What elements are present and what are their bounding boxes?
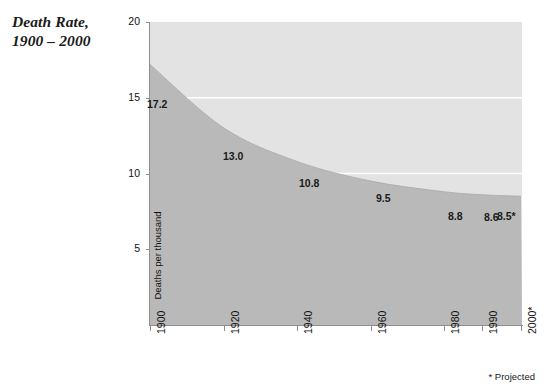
data-label-1960: 9.5 xyxy=(376,192,391,204)
y-tick-mark-10 xyxy=(146,174,150,175)
x-tick-label-1940: 1940 xyxy=(302,311,314,334)
x-tick-label-1990: 1990 xyxy=(487,311,499,334)
x-tick-label-1960: 1960 xyxy=(376,311,388,334)
x-axis-line xyxy=(149,325,523,326)
y-tick-label-20: 20 xyxy=(118,15,140,27)
x-tick-mark-1990 xyxy=(482,326,483,331)
y-tick-mark-5 xyxy=(146,249,150,250)
x-tick-mark-1920 xyxy=(224,326,225,331)
data-label-1940: 10.8 xyxy=(299,177,319,189)
x-tick-mark-1940 xyxy=(297,326,298,331)
x-tick-mark-1980 xyxy=(444,326,445,331)
x-tick-label-1920: 1920 xyxy=(229,311,241,334)
data-label-1980: 8.8 xyxy=(448,210,463,222)
area-chart-svg xyxy=(150,22,522,325)
data-label-2000*: 8.5* xyxy=(497,210,516,222)
x-tick-label-2000: 2000* xyxy=(526,307,538,334)
y-axis-title-wrapper: Deaths per thousand xyxy=(108,100,128,260)
data-label-1900: 17.2 xyxy=(147,98,167,110)
plot-area xyxy=(150,22,522,325)
data-label-1920: 13.0 xyxy=(223,150,243,162)
chart-screenshot: Death Rate, 1900 – 2000 2015105 19001920… xyxy=(0,0,548,392)
x-tick-mark-1900 xyxy=(150,326,151,331)
x-tick-label-1980: 1980 xyxy=(449,311,461,334)
footnote-projected: * Projected xyxy=(489,371,535,382)
y-tick-mark-20 xyxy=(146,22,150,23)
x-tick-mark-1960 xyxy=(371,326,372,331)
x-tick-mark-2000 xyxy=(521,326,522,331)
area-series-death-rate xyxy=(150,64,522,325)
y-axis-title: Deaths per thousand xyxy=(152,186,163,326)
